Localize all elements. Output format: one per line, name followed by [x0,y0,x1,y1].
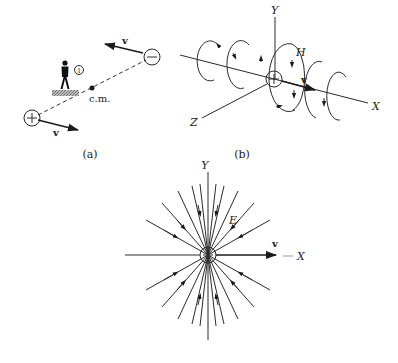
field-loop-1 [197,41,218,81]
velocity-label-c: v [271,238,279,249]
axis-x-label: X [371,100,381,113]
velocity-label-top: v [121,35,129,46]
velocity-label-bottom: v [52,127,60,138]
field-loop-2 [227,41,249,89]
axis-y-label: Y [271,4,280,17]
platform [52,90,79,96]
axis-z-label: Z [189,116,198,129]
caption-a: (a) [82,148,97,161]
velocity-label-b: v [300,74,308,85]
figure: v v c.m. 1 (a) Y X Z [0,0,398,363]
field-h-label: H [295,46,306,59]
center-of-mass-label: c.m. [89,93,110,104]
panel-c: Y [125,159,306,340]
axis-x-label-c: X [296,250,306,263]
center-of-mass-dot [90,86,95,91]
panel-a: v v c.m. 1 (a) [24,35,160,161]
observer-label: 1 [77,67,81,75]
observer-icon [61,60,70,89]
axis-y-label-c: Y [201,159,210,172]
velocity-arrow-b [282,81,315,90]
field-e-label: E [228,214,237,227]
caption-b: (b) [234,148,250,161]
panel-b: Y X Z H v (b) [180,4,381,161]
z-axis [202,84,267,118]
